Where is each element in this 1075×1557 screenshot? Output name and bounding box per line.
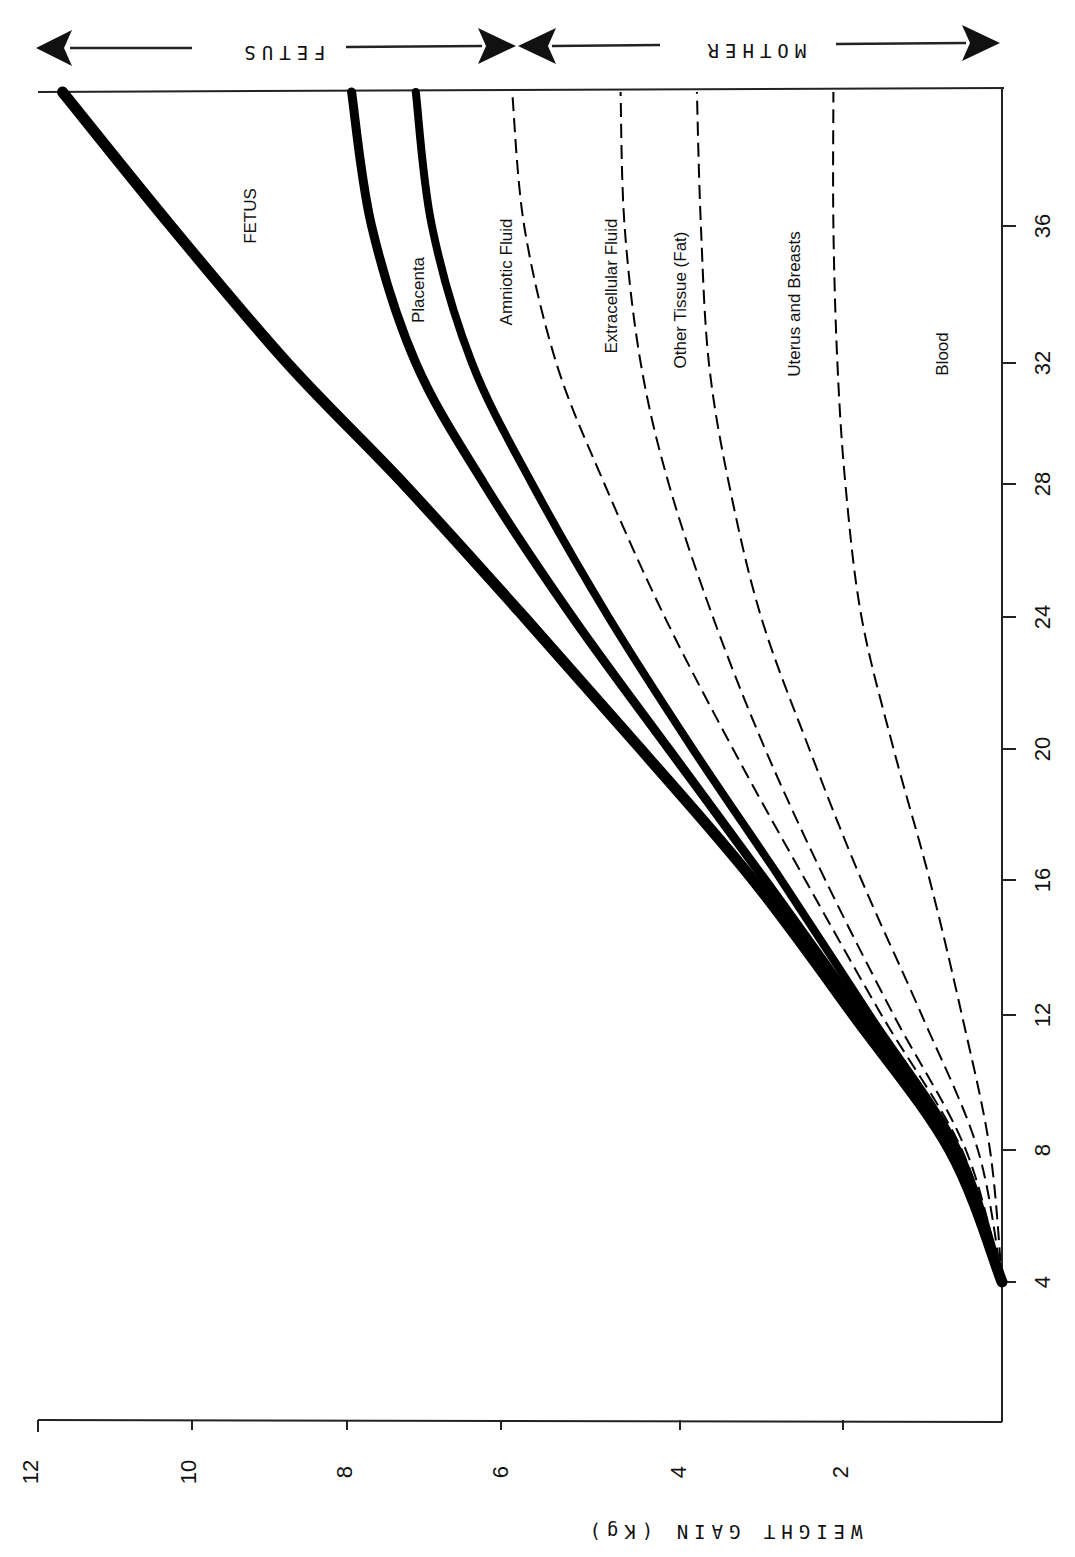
kg-axis-title: WEIGHT GAIN (Kg) [583,1521,862,1543]
weight-gain-chart: 4 8 12 16 20 24 28 32 36 12 10 8 6 4 2 W… [0,0,1075,1557]
kg-label-6: 6 [488,1466,513,1478]
curve-label-other-tissue: Other Tissue (Fat) [671,232,690,369]
kg-label-4: 4 [666,1466,691,1478]
fetus-band-indicator: FETUS [36,28,516,66]
curve-label-blood: Blood [933,332,952,375]
kg-label-8: 8 [332,1466,357,1478]
curve-label-uterus-breasts: Uterus and Breasts [785,231,804,377]
fetus-band-label: FETUS [238,42,325,64]
arrow-right-icon [478,28,516,64]
arrow-left-icon [36,30,72,66]
kg-axis-line [38,1420,1002,1422]
curves-group [63,92,1003,1282]
week-label-8: 8 [1030,1144,1055,1156]
curve-uterus-and-breasts [697,92,1002,1282]
kg-label-12: 12 [18,1460,43,1484]
arrow-right-icon [962,25,1000,61]
week-tick-labels: 4 8 12 16 20 24 28 32 36 [1030,214,1055,1288]
kg-label-2: 2 [828,1466,853,1478]
week-label-24: 24 [1030,605,1055,629]
mother-band-indicator: MOTHER [518,25,1000,64]
mother-band-label: MOTHER [702,40,807,62]
week-label-36: 36 [1030,214,1055,238]
week-label-16: 16 [1030,868,1055,892]
arrow-left-icon [518,28,556,64]
chart-top-border [38,88,1004,92]
week-ticks [1002,226,1016,1282]
curve-label-fetus: FETUS [241,188,260,244]
curve-label-extracellular-fluid: Extracellular Fluid [602,218,621,353]
kg-tick-labels: 12 10 8 6 4 2 [18,1460,853,1484]
week-label-32: 32 [1030,351,1055,375]
week-label-12: 12 [1030,1003,1055,1027]
week-label-4: 4 [1030,1276,1055,1288]
week-label-20: 20 [1030,737,1055,761]
kg-label-10: 10 [176,1460,201,1484]
curve-label-amniotic-fluid: Amniotic Fluid [497,219,516,326]
curve-label-placenta: Placenta [409,256,428,323]
week-label-28: 28 [1030,472,1055,496]
